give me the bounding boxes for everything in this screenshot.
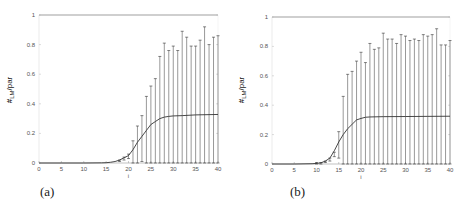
x-tick-label: 0 (270, 167, 274, 173)
x-tick-label: 40 (447, 167, 454, 173)
y-tick-label: 0.4 (27, 101, 36, 107)
x-tick-label: 25 (380, 167, 387, 173)
y-tick-label: 1 (265, 14, 269, 20)
x-tick-label: 15 (103, 166, 110, 172)
x-tick-label: 5 (60, 166, 64, 172)
x-axis-label: i (128, 173, 129, 179)
figure: 051015202530354000.20.40.60.81i#LM/par(a… (0, 0, 469, 211)
y-tick-label: 0.2 (27, 130, 36, 136)
x-tick-label: 30 (170, 166, 177, 172)
x-tick-label: 20 (358, 167, 365, 173)
y-tick-label: 0.4 (260, 102, 269, 108)
panel-caption: (a) (40, 184, 54, 199)
x-tick-label: 0 (37, 166, 41, 172)
x-tick-label: 25 (148, 166, 155, 172)
x-tick-label: 35 (424, 167, 431, 173)
x-tick-label: 15 (335, 167, 342, 173)
x-tick-label: 30 (402, 167, 409, 173)
x-tick-label: 10 (313, 167, 320, 173)
y-tick-label: 0 (32, 160, 36, 166)
x-tick-label: 40 (215, 166, 222, 172)
x-tick-label: 10 (80, 166, 87, 172)
chart-panel-b: 051015202530354000.20.40.60.81i#LM/par(b… (237, 14, 454, 199)
y-tick-label: 0.6 (260, 73, 269, 79)
y-tick-label: 0.8 (260, 43, 269, 49)
panel-caption: (b) (290, 184, 305, 199)
y-tick-label: 0.8 (27, 42, 36, 48)
y-axis-label: #LM/par (5, 76, 15, 103)
y-axis-label: #LM/par (237, 76, 247, 103)
x-tick-label: 5 (293, 167, 297, 173)
y-tick-label: 0 (265, 161, 269, 167)
x-axis-label: i (360, 174, 361, 180)
x-tick-label: 20 (125, 166, 132, 172)
y-tick-label: 1 (32, 12, 36, 18)
x-tick-label: 35 (192, 166, 199, 172)
y-tick-label: 0.6 (27, 71, 36, 77)
y-tick-label: 0.2 (260, 132, 269, 138)
chart-panel-a: 051015202530354000.20.40.60.81i#LM/par(a… (5, 12, 222, 199)
